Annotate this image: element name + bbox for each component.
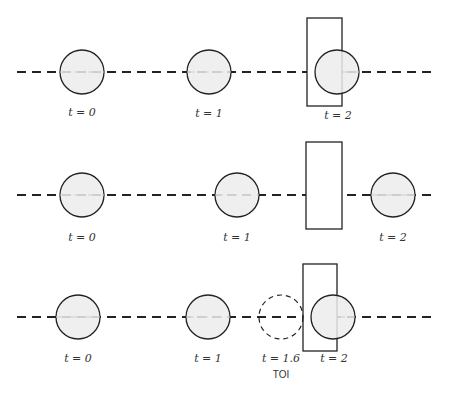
time-label: t = 0 bbox=[64, 352, 92, 365]
time-label: t = 1 bbox=[194, 352, 222, 365]
ball-t2-overlapping-wall bbox=[311, 295, 355, 339]
time-label: t = 1 bbox=[223, 231, 251, 244]
row-2-tunneling: t = 0 t = 1 t = 2 bbox=[17, 142, 436, 244]
toi-label: TOI bbox=[273, 369, 289, 380]
time-label: t = 2 bbox=[320, 352, 348, 365]
toi-diagram: t = 0 t = 1 t = 2 t = 0 t = 1 t = 2 t = … bbox=[0, 0, 451, 393]
time-label: t = 0 bbox=[68, 106, 96, 119]
time-label: t = 2 bbox=[379, 231, 407, 244]
wall-obstacle bbox=[306, 142, 342, 229]
ball-t2-overlapping-wall bbox=[315, 50, 359, 94]
time-label-toi: t = 1.6 bbox=[262, 352, 300, 365]
time-label: t = 0 bbox=[68, 231, 96, 244]
row-3-time-of-impact: t = 0 t = 1 t = 1.6 TOI t = 2 bbox=[17, 264, 436, 380]
row-1-discrete-overlap: t = 0 t = 1 t = 2 bbox=[17, 18, 436, 122]
time-label: t = 1 bbox=[195, 107, 223, 120]
time-label: t = 2 bbox=[324, 109, 352, 122]
